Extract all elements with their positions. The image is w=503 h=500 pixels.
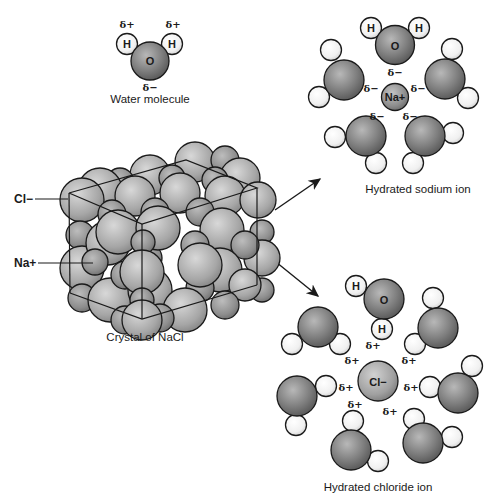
partial-negative-label: δ− — [387, 67, 402, 78]
water-molecule: H H O — [346, 276, 405, 340]
hydrogen-label: H — [352, 280, 360, 292]
partial-negative-label: δ− — [363, 83, 378, 94]
hydrated-chloride-caption: Hydrated chloride ion — [324, 481, 433, 493]
partial-positive-label: δ+ — [401, 355, 416, 366]
water-molecule — [282, 307, 351, 355]
water-molecule — [403, 409, 463, 464]
water-molecule: H H O δ+ δ+ δ− Water molecule — [110, 19, 189, 105]
oxygen-label: O — [146, 55, 155, 67]
partial-positive-label: δ+ — [347, 399, 362, 410]
water-molecule-caption: Water molecule — [110, 93, 189, 105]
water-molecule — [405, 288, 459, 355]
crystal-caption: Crystal of NaCl — [106, 331, 183, 343]
water-molecule: H H O — [361, 18, 430, 65]
partial-positive-label: δ+ — [344, 355, 359, 366]
partial-positive-label: δ+ — [382, 406, 397, 417]
hydrogen-label: H — [367, 22, 375, 34]
hydrogen-label: H — [123, 38, 131, 50]
water-molecule — [325, 116, 387, 174]
chloride-label: Cl− — [14, 192, 33, 206]
partial-negative-label: δ− — [410, 83, 425, 94]
hydrogen-label: H — [415, 22, 423, 34]
partial-positive-label: δ+ — [119, 19, 134, 30]
partial-positive-label: δ+ — [338, 382, 353, 393]
partial-positive-label: δ+ — [165, 19, 180, 30]
partial-positive-label: δ+ — [365, 340, 380, 351]
water-molecule — [277, 376, 337, 436]
partial-negative-label: δ− — [142, 82, 157, 93]
arrow-to-chloride — [276, 262, 318, 296]
hydrated-chloride-ion: H H O — [277, 276, 483, 494]
partial-negative-label: δ− — [402, 111, 417, 122]
diagram-canvas: H H O δ+ δ+ δ− Water molecule H H O — [0, 0, 503, 500]
sodium-label: Na+ — [14, 256, 36, 270]
arrow-to-sodium — [275, 179, 320, 210]
hydrated-sodium-caption: Hydrated sodium ion — [365, 183, 470, 195]
nacl-crystal — [60, 142, 280, 340]
sodium-ion-label: Na+ — [385, 91, 406, 103]
oxygen-label: O — [391, 40, 400, 52]
hydrated-sodium-ion: H H O Na+ δ− — [309, 18, 479, 196]
chloride-ion-label: Cl− — [369, 376, 386, 388]
partial-positive-label: δ+ — [403, 382, 418, 393]
nacl-hydration-diagram: H H O δ+ δ+ δ− Water molecule H H O — [0, 0, 503, 500]
water-molecule — [309, 40, 365, 108]
oxygen-label: O — [380, 294, 389, 306]
partial-negative-label: δ− — [369, 111, 384, 122]
water-molecule — [420, 356, 483, 414]
hydrogen-label: H — [378, 323, 386, 335]
hydrogen-label: H — [168, 38, 176, 50]
water-molecule — [425, 39, 479, 109]
water-molecule — [403, 116, 464, 174]
water-molecule — [331, 411, 389, 472]
